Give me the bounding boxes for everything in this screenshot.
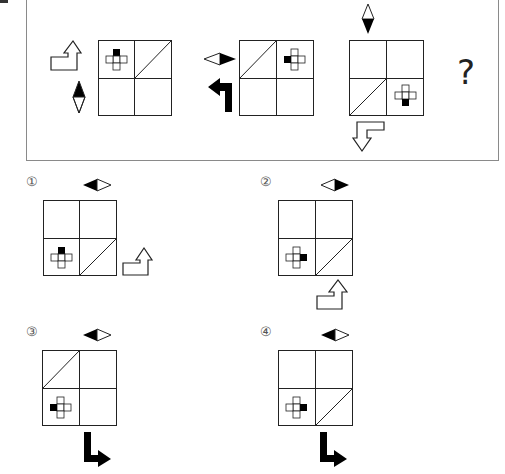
option-1-grid[interactable]	[43, 200, 117, 276]
corner-mark	[0, 0, 8, 3]
solid-corner-left-arrow-icon	[207, 77, 237, 113]
outline-corner-up-arrow-icon	[122, 247, 160, 277]
outline-corner-down-arrow-icon	[349, 121, 385, 153]
question-mark: ?	[457, 52, 475, 92]
puzzle-grid-1	[98, 40, 172, 116]
diamond-horizontal-right-black-icon	[203, 52, 237, 66]
option-1-number[interactable]: ①	[26, 174, 38, 189]
option-4-grid[interactable]	[278, 350, 353, 426]
solid-corner-right-arrow-icon	[319, 431, 349, 467]
diamond-horizontal-right-black-icon	[320, 178, 350, 192]
diamond-horizontal-left-black-icon	[320, 328, 350, 342]
diamond-vertical-top-black-icon	[72, 80, 86, 114]
puzzle-grid-3	[349, 40, 424, 116]
option-2-grid[interactable]	[278, 200, 353, 276]
outline-corner-up-arrow-icon	[316, 279, 354, 311]
puzzle-grid-2	[239, 40, 314, 116]
option-4-number[interactable]: ④	[260, 324, 272, 339]
diamond-horizontal-left-black-icon	[82, 178, 112, 192]
outline-corner-up-arrow-icon	[50, 40, 90, 72]
option-2-number[interactable]: ②	[260, 174, 272, 189]
diamond-horizontal-left-black-icon	[82, 328, 112, 342]
option-3-number[interactable]: ③	[26, 324, 38, 339]
diamond-vertical-bottom-black-icon	[361, 3, 375, 35]
solid-corner-right-arrow-icon	[83, 431, 113, 467]
option-3-grid[interactable]	[42, 350, 117, 426]
